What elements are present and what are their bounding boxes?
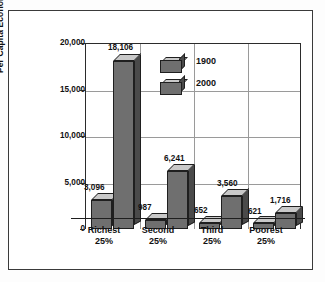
category-label-line1: Poorest <box>239 225 293 236</box>
category-label-line1: Third <box>185 225 239 236</box>
legend-label-2000: 2000 <box>196 78 216 88</box>
bar-value-label-1900-second: 987 <box>138 203 152 212</box>
bar-value-label-2000-poorest: 1,716 <box>270 196 291 205</box>
category-label-second: Second 25% <box>131 225 185 247</box>
y-axis-ticks: 20,000 15,000 10,000 5,000 0 <box>33 43 85 229</box>
legend-swatch-2000 <box>160 79 184 95</box>
y-tick-label: 20,000 <box>39 38 85 47</box>
category-label-richest: Richest 25% <box>77 225 131 247</box>
plot-area: 3,096 18,106 987 <box>85 43 301 229</box>
bar-group-poorest: 621 1,716 <box>248 44 302 229</box>
bar-value-label-2000-second: 6,241 <box>164 154 185 163</box>
bar-value-label-1900-third: 652 <box>194 206 208 215</box>
bar-front-face <box>167 171 188 229</box>
y-tick-label: 15,000 <box>39 85 85 94</box>
category-label-line2: 25% <box>131 236 185 247</box>
bar-value-label-2000-third: 3,560 <box>217 179 238 188</box>
category-label-line1: Richest <box>77 225 131 236</box>
category-label-line1: Second <box>131 225 185 236</box>
category-label-line2: 25% <box>77 236 131 247</box>
category-label-line2: 25% <box>239 236 293 247</box>
legend-swatch-front-face <box>160 60 182 73</box>
category-label-third: Third 25% <box>185 225 239 247</box>
bar-value-label-2000-richest: 18,106 <box>108 43 133 52</box>
y-tick-label: 10,000 <box>39 131 85 140</box>
category-label-line2: 25% <box>185 236 239 247</box>
bar-2000-richest <box>113 61 134 229</box>
bar-2000-second <box>167 171 188 229</box>
chart-legend: 1900 2000 <box>156 52 236 106</box>
y-axis-title: Per Capita Economic Output (in dollars) <box>0 0 9 73</box>
bar-value-label-1900-poorest: 621 <box>248 207 262 216</box>
category-label-poorest: Poorest 25% <box>239 225 293 247</box>
legend-item-2000: 2000 <box>156 74 236 100</box>
x-axis-line <box>71 218 305 219</box>
legend-swatch-front-face <box>160 82 182 95</box>
bar-value-label-1900-richest: 3,096 <box>84 183 105 192</box>
y-tick-label: 5,000 <box>39 178 85 187</box>
chart-figure: Per Capita Economic Output (in dollars) … <box>0 0 325 282</box>
legend-swatch-1900 <box>160 57 184 73</box>
x-axis-categories: Richest 25% Second 25% Third 25% Poorest… <box>77 225 293 259</box>
figure-border: Per Capita Economic Output (in dollars) … <box>8 10 313 270</box>
legend-label-1900: 1900 <box>196 56 216 66</box>
bar-front-face <box>113 61 134 229</box>
bar-group-richest: 3,096 18,106 <box>86 44 140 229</box>
